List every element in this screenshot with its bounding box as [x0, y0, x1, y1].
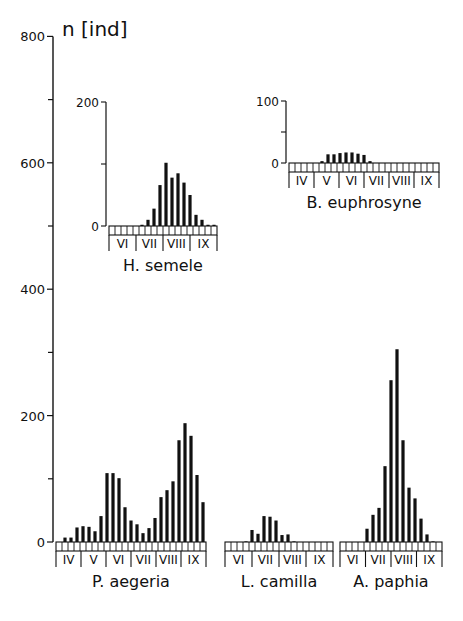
bar	[93, 531, 96, 542]
month-label: VI	[233, 553, 245, 567]
bar	[326, 154, 329, 163]
bar	[401, 440, 404, 542]
species-label: B. euphrosyne	[306, 193, 421, 212]
month-label: VIII	[283, 553, 302, 567]
month-label: VII	[142, 237, 157, 251]
month-label: VI	[346, 174, 358, 188]
bar	[99, 516, 102, 542]
month-label: VI	[347, 553, 359, 567]
bar	[365, 529, 368, 542]
bar	[395, 349, 398, 542]
bar	[383, 466, 386, 542]
phenology-chart: 0200400600800 n [ind] IVVVIVIIVIIIIXP. a…	[0, 0, 463, 621]
bar	[250, 530, 253, 542]
month-label: V	[89, 553, 98, 567]
species-label: P. aegeria	[92, 572, 170, 591]
bar	[338, 153, 341, 163]
bar	[81, 526, 84, 542]
month-label: IX	[423, 553, 435, 567]
bar	[377, 508, 380, 542]
panels: IVVVIVIIVIIIIXP. aegeriaVIVIIVIIIIXL. ca…	[56, 95, 442, 591]
bar	[63, 538, 66, 542]
panel-b-euphrosyne: 0100IVVVIVIIVIIIIXB. euphrosyne	[256, 95, 439, 212]
y-axis-label: n [ind]	[62, 17, 128, 41]
species-label: L. camilla	[241, 572, 317, 591]
bar	[105, 473, 108, 542]
month-label: IX	[188, 553, 200, 567]
week-strip	[56, 542, 206, 551]
bar	[200, 220, 203, 226]
species-label: A. paphia	[353, 572, 428, 591]
month-label: VII	[136, 553, 151, 567]
bar	[425, 534, 428, 542]
month-label: IV	[296, 174, 309, 188]
bar	[158, 185, 161, 226]
month-label: IX	[198, 237, 210, 251]
bar	[87, 527, 90, 542]
bar	[356, 154, 359, 163]
inset-tick-label: 0	[91, 220, 99, 234]
bar	[75, 527, 78, 542]
bar	[280, 535, 283, 542]
bar	[194, 215, 197, 226]
month-label: VIII	[392, 174, 411, 188]
bar	[413, 498, 416, 542]
month-label: VII	[371, 553, 386, 567]
bar	[286, 534, 289, 542]
tick-label: 0	[37, 535, 45, 550]
inset-tick-label: 100	[256, 95, 279, 109]
bar	[111, 473, 114, 542]
week-strip	[340, 542, 442, 551]
tick-label: 600	[20, 156, 45, 171]
bar	[262, 516, 265, 542]
bar	[182, 183, 185, 226]
bar	[165, 490, 168, 542]
tick-label: 800	[20, 29, 45, 44]
bar	[350, 152, 353, 163]
bar	[152, 209, 155, 226]
bar	[177, 440, 180, 542]
month-label: VIII	[167, 237, 186, 251]
bar	[146, 220, 149, 226]
panel-l-camilla: VIVIIVIIIIXL. camilla	[225, 516, 333, 591]
bar	[195, 475, 198, 542]
bar	[371, 515, 374, 542]
bar	[344, 152, 347, 163]
bar	[201, 502, 204, 542]
bar	[164, 163, 167, 226]
month-label: VIII	[394, 553, 413, 567]
bar	[159, 497, 162, 542]
bar	[153, 518, 156, 542]
tick-label: 400	[20, 282, 45, 297]
bar	[183, 423, 186, 542]
bar	[69, 538, 72, 542]
month-label: IX	[314, 553, 326, 567]
bar	[189, 436, 192, 542]
month-label: VI	[117, 237, 129, 251]
bar	[274, 521, 277, 542]
bar	[188, 195, 191, 226]
inset-tick-label: 200	[76, 96, 99, 110]
bar	[389, 380, 392, 542]
month-label: IX	[421, 174, 433, 188]
bar	[129, 521, 132, 542]
month-label: IV	[63, 553, 76, 567]
bar	[268, 517, 271, 542]
panel-h-semele: 0200VIVIIVIIIIXH. semele	[76, 96, 217, 275]
bar	[171, 481, 174, 542]
tick-label: 200	[20, 409, 45, 424]
bar	[419, 519, 422, 542]
bar	[170, 178, 173, 226]
month-label: VII	[369, 174, 384, 188]
bar	[141, 533, 144, 542]
month-label: VIII	[159, 553, 178, 567]
month-label: VI	[113, 553, 125, 567]
month-label: VII	[258, 553, 273, 567]
panel-p-aegeria: IVVVIVIIVIIIIXP. aegeria	[56, 423, 206, 591]
bar	[256, 534, 259, 542]
bar	[147, 528, 150, 542]
month-label: V	[322, 174, 331, 188]
bar	[123, 507, 126, 542]
week-strip	[289, 163, 439, 172]
species-label: H. semele	[123, 256, 203, 275]
